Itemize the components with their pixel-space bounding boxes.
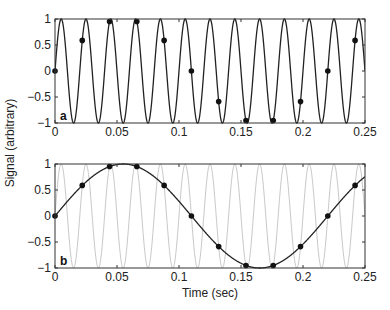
50-hz-sine-line <box>55 19 365 123</box>
sample-point <box>134 19 140 25</box>
sample-point <box>79 183 85 189</box>
sample-point <box>243 118 249 124</box>
x-tick-label: 0 <box>52 125 59 139</box>
aliasing-figure: 00.050.10.150.20.2510.50−0.5−1a 00.050.1… <box>0 0 390 310</box>
sample-point <box>216 244 222 250</box>
sample-point <box>352 183 358 189</box>
y-tick-label: −0.5 <box>27 235 51 249</box>
sample-point <box>189 213 195 219</box>
panel-a-plot: 00.050.10.150.20.2510.50−0.5−1a <box>27 12 377 139</box>
sample-point <box>107 164 113 170</box>
x-tick-label: 0.05 <box>105 270 129 284</box>
y-tick-label: −1 <box>37 116 51 130</box>
sample-point <box>79 38 85 44</box>
y-tick-label: −0.5 <box>27 90 51 104</box>
x-tick-label: 0.1 <box>171 270 188 284</box>
sample-point <box>325 68 331 74</box>
sample-point <box>298 99 304 105</box>
sample-point <box>134 164 140 170</box>
sample-point <box>243 263 249 269</box>
sample-point <box>107 19 113 25</box>
x-tick-label: 0.05 <box>105 125 129 139</box>
sample-point <box>270 118 276 124</box>
y-tick-label: 0.5 <box>34 38 51 52</box>
x-tick-label: 0.25 <box>353 125 377 139</box>
y-tick-label: 0 <box>44 209 51 223</box>
sample-point <box>270 263 276 269</box>
x-tick-label: 0 <box>52 270 59 284</box>
sample-point <box>161 38 167 44</box>
panel-label: a <box>60 109 67 123</box>
sample-point <box>189 68 195 74</box>
sample-point <box>352 38 358 44</box>
sample-point <box>161 183 167 189</box>
x-tick-label: 0.2 <box>295 270 312 284</box>
x-tick-label: 0.25 <box>353 270 377 284</box>
x-tick-label: 0.15 <box>229 125 253 139</box>
panel-label: b <box>60 254 67 268</box>
50-hz-sine-line <box>55 164 365 268</box>
panel-b-plot: 00.050.10.150.20.2510.50−0.5−1b <box>27 157 377 284</box>
y-axis-label: Signal (arbitrary) <box>3 99 17 188</box>
x-tick-label: 0.15 <box>229 270 253 284</box>
y-tick-label: 0 <box>44 64 51 78</box>
sample-point <box>216 99 222 105</box>
x-axis-label: Time (sec) <box>182 286 238 300</box>
y-tick-label: 1 <box>44 157 51 171</box>
y-tick-label: 1 <box>44 12 51 26</box>
y-tick-label: −1 <box>37 261 51 275</box>
y-tick-label: 0.5 <box>34 183 51 197</box>
x-tick-label: 0.2 <box>295 125 312 139</box>
sample-point <box>298 244 304 250</box>
sample-point <box>325 213 331 219</box>
x-tick-label: 0.1 <box>171 125 188 139</box>
